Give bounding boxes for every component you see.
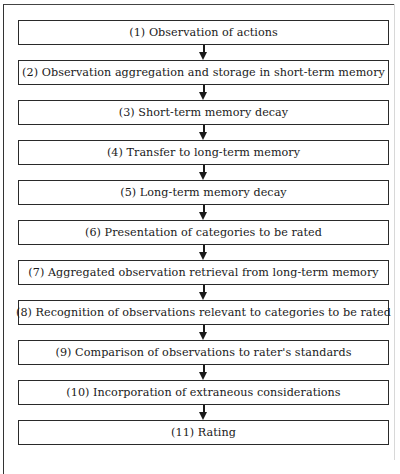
step-11-rating: (11) Rating — [18, 420, 389, 445]
arrow-down-icon — [199, 205, 208, 220]
step-label: (9) Comparison of observations to rater'… — [55, 346, 351, 359]
arrow-down-icon — [199, 45, 208, 60]
step-4-transfer-long-term: (4) Transfer to long-term memory — [18, 140, 389, 165]
arrow-down-icon — [199, 365, 208, 380]
arrow-down-icon — [199, 85, 208, 100]
step-label: (8) Recognition of observations relevant… — [16, 306, 391, 319]
step-label: (7) Aggregated observation retrieval fro… — [28, 266, 378, 279]
step-2-aggregation-short-term: (2) Observation aggregation and storage … — [18, 60, 389, 85]
step-label: (3) Short-term memory decay — [119, 106, 288, 119]
step-3-short-term-decay: (3) Short-term memory decay — [18, 100, 389, 125]
arrow-down-icon — [199, 125, 208, 140]
step-label: (6) Presentation of categories to be rat… — [85, 226, 322, 239]
step-label: (1) Observation of actions — [129, 26, 277, 39]
arrow-down-icon — [199, 245, 208, 260]
step-5-long-term-decay: (5) Long-term memory decay — [18, 180, 389, 205]
step-label: (5) Long-term memory decay — [120, 186, 286, 199]
step-8-recognition-relevant: (8) Recognition of observations relevant… — [18, 300, 389, 325]
step-label: (11) Rating — [171, 426, 236, 439]
step-7-retrieval-long-term: (7) Aggregated observation retrieval fro… — [18, 260, 389, 285]
step-label: (10) Incorporation of extraneous conside… — [66, 386, 340, 399]
arrow-down-icon — [199, 165, 208, 180]
step-label: (4) Transfer to long-term memory — [107, 146, 300, 159]
step-9-comparison-standards: (9) Comparison of observations to rater'… — [18, 340, 389, 365]
arrow-down-icon — [199, 325, 208, 340]
step-1-observation-of-actions: (1) Observation of actions — [18, 20, 389, 45]
step-label: (2) Observation aggregation and storage … — [22, 66, 385, 79]
step-10-extraneous-considerations: (10) Incorporation of extraneous conside… — [18, 380, 389, 405]
step-6-presentation-categories: (6) Presentation of categories to be rat… — [18, 220, 389, 245]
arrow-down-icon — [199, 405, 208, 420]
arrow-down-icon — [199, 285, 208, 300]
diagram-frame-right-edge — [394, 4, 395, 460]
